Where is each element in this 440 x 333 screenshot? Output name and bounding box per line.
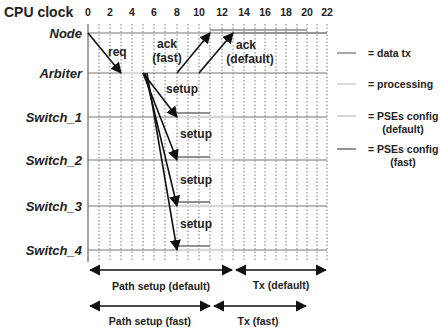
setup-label-1: setup	[166, 82, 198, 96]
tick-label: 6	[151, 6, 157, 18]
legend-label-processing: = processing	[368, 78, 433, 90]
legend-sublabel-pse-fast: (fast)	[390, 156, 416, 168]
legend-label-pse-default: = PSEs config	[368, 110, 438, 122]
tick-label: 2	[107, 6, 113, 18]
tick-label: 20	[301, 6, 313, 18]
timing-diagram: CPU clock 0 2 4 6 8 10 12 14 16 18 20 22	[0, 0, 440, 333]
setup-label-3: setup	[180, 173, 212, 187]
tick-label: 12	[216, 6, 228, 18]
ack-default-sublabel: (default)	[226, 52, 273, 66]
row-label-arbiter: Arbiter	[38, 66, 83, 81]
row-labels: Node Arbiter Switch_1 Switch_2 Switch_3 …	[26, 26, 83, 258]
x-axis-ticks: 0 2 4 6 8 10 12 14 16 18 20 22	[85, 6, 333, 18]
tick-label: 10	[193, 6, 205, 18]
row-label-switch-2: Switch_2	[26, 153, 83, 168]
row-label-switch-4: Switch_4	[26, 243, 83, 258]
tick-label: 14	[238, 6, 250, 18]
span-label-path-setup-default: Path setup (default)	[112, 280, 210, 292]
ack-default-label: ack	[236, 38, 256, 52]
tick-label: 0	[85, 6, 91, 18]
tick-label: 22	[321, 6, 333, 18]
row-label-switch-1: Switch_1	[26, 110, 82, 125]
setup-label-2: setup	[180, 127, 212, 141]
span-label-path-setup-fast: Path setup (fast)	[109, 315, 191, 327]
tick-label: 16	[259, 6, 271, 18]
span-label-tx-fast: Tx (fast)	[238, 315, 279, 327]
legend: = data tx = processing = PSEs config (de…	[337, 47, 438, 168]
row-label-node: Node	[50, 26, 83, 41]
ack-fast-sublabel: (fast)	[152, 51, 181, 65]
setup-label-4: setup	[180, 217, 212, 231]
grid-lines	[99, 24, 327, 262]
setup-arrow-4	[147, 73, 177, 250]
tick-label: 8	[174, 6, 180, 18]
legend-sublabel-pse-default: (default)	[382, 123, 423, 135]
tick-label: 18	[280, 6, 292, 18]
row-label-switch-3: Switch_3	[26, 199, 83, 214]
ack-fast-label: ack	[157, 37, 177, 51]
span-label-tx-default: Tx (default)	[253, 279, 310, 291]
legend-label-pse-fast: = PSEs config	[368, 143, 438, 155]
chart-title: CPU clock	[4, 4, 73, 20]
tick-label: 4	[129, 6, 135, 18]
legend-label-data-tx: = data tx	[368, 47, 411, 59]
req-label: req	[108, 45, 127, 59]
